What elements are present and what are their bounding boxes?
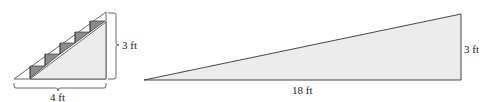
ramp-figure: 3 ft 18 ft <box>144 14 479 96</box>
ramp-height-label: 3 ft <box>464 43 479 55</box>
ramp-triangle <box>144 14 461 80</box>
height-brace <box>108 13 119 79</box>
base-brace <box>14 83 106 91</box>
staircase-height-label: 3 ft <box>122 39 137 51</box>
staircase-fill-triangle <box>30 22 106 79</box>
staircase-figure: 3 ft 4 ft <box>14 12 137 102</box>
diagram-canvas: 3 ft 4 ft 3 ft 18 ft <box>0 0 487 102</box>
ramp-base-label: 18 ft <box>292 84 312 96</box>
staircase-base-label: 4 ft <box>50 91 65 102</box>
